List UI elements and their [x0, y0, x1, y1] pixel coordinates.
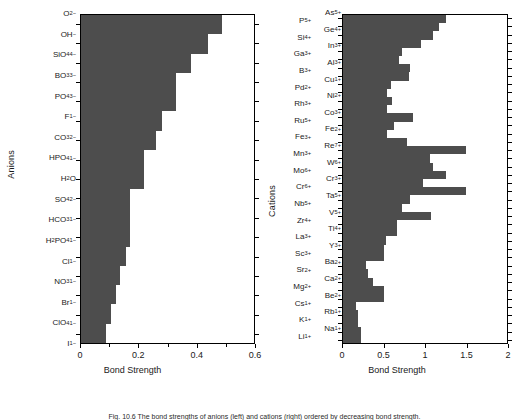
anions-ytick-r-1	[255, 43, 259, 44]
bar-row	[343, 15, 507, 23]
anion-bar-9	[81, 189, 130, 208]
cations-ytick-l-4	[338, 51, 342, 52]
cation-bar-32	[343, 278, 373, 286]
anion-bar-8	[81, 169, 144, 188]
bar-row	[343, 253, 507, 261]
cations-ytick-l-0	[338, 18, 342, 19]
anions-ytick-l-3	[76, 82, 80, 83]
anions-ytick-r-3	[255, 82, 259, 83]
cations-ytick-l-27	[338, 241, 342, 242]
cations-ytick-r-4	[508, 51, 512, 52]
figure-root: Anions O2−OH−SiO44−BO33−PO43−F1−CO32−HPO…	[0, 0, 529, 420]
cations-ytick-l-37	[338, 323, 342, 324]
anion-bar-16	[81, 324, 106, 343]
bar-row	[343, 97, 507, 105]
cations-ytick-r-15	[508, 142, 512, 143]
cation-bar-22	[343, 195, 410, 203]
cations-ytick-r-19	[508, 175, 512, 176]
cation-bar-21	[343, 187, 466, 195]
cation-bar-9	[343, 89, 387, 97]
cation-bar-24	[343, 212, 431, 220]
cations-tick-1	[384, 344, 385, 348]
anion-bar-13	[81, 266, 120, 285]
bar-row	[343, 236, 507, 244]
cations-ytick-l-7	[338, 76, 342, 77]
cation-bar-27	[343, 236, 386, 244]
anion-bar-1	[81, 34, 208, 53]
cations-ytick-r-27	[508, 241, 512, 242]
anions-ytick-r-15	[255, 315, 259, 316]
cations-ytick-l-17	[338, 158, 342, 159]
bar-row	[81, 54, 254, 73]
bar-row	[343, 48, 507, 56]
bar-row	[81, 131, 254, 150]
cations-ytick-r-36	[508, 315, 512, 316]
cations-ytick-r-1	[508, 26, 512, 27]
bar-row	[81, 324, 254, 343]
anions-ytick-r-9	[255, 198, 259, 199]
anions-ticklabel-2: 0.4	[190, 350, 203, 360]
cations-ytick-l-18	[338, 167, 342, 168]
bar-row	[343, 195, 507, 203]
bar-row	[343, 130, 507, 138]
anions-ytick-l-15	[76, 315, 80, 316]
bar-row	[343, 163, 507, 171]
bar-row	[343, 138, 507, 146]
cations-ytick-l-38	[338, 332, 342, 333]
bar-row	[343, 310, 507, 318]
cations-ytick-l-5	[338, 59, 342, 60]
cations-ytick-l-26	[338, 233, 342, 234]
anions-category-labels: O2−OH−SiO44−BO33−PO43−F1−CO32−HPO41−H2OS…	[14, 14, 76, 344]
bar-row	[343, 278, 507, 286]
anions-ytick-r-12	[255, 257, 259, 258]
anion-bar-6	[81, 131, 156, 150]
cation-bar-11	[343, 105, 387, 113]
cations-ytick-l-11	[338, 109, 342, 110]
anions-chart-panel: Anions O2−OH−SiO44−BO33−PO43−F1−CO32−HPO…	[0, 0, 265, 400]
cation-bar-16	[343, 146, 466, 154]
anions-ytick-r-2	[255, 63, 259, 64]
cation-bar-33	[343, 286, 384, 294]
bar-row	[343, 302, 507, 310]
cations-ytick-r-34	[508, 299, 512, 300]
bar-row	[81, 92, 254, 111]
bar-row	[343, 31, 507, 39]
cation-bar-12	[343, 113, 413, 121]
cations-ytick-l-34	[338, 299, 342, 300]
cations-ytick-l-14	[338, 134, 342, 135]
bar-row	[81, 15, 254, 34]
cation-bar-20	[343, 179, 423, 187]
cation-bar-14	[343, 130, 387, 138]
cation-bar-36	[343, 310, 358, 318]
bar-row	[343, 319, 507, 327]
anion-bar-5	[81, 111, 162, 130]
cations-ytick-r-18	[508, 167, 512, 168]
cations-ytick-r-38	[508, 332, 512, 333]
cations-ytick-l-33	[338, 290, 342, 291]
cations-ytick-l-13	[338, 125, 342, 126]
cations-ytick-l-3	[338, 43, 342, 44]
cations-ytick-r-9	[508, 92, 512, 93]
cations-tick-0	[342, 344, 343, 348]
cation-bar-15	[343, 138, 407, 146]
cations-ytick-l-24	[338, 216, 342, 217]
anions-ytick-l-13	[76, 276, 80, 277]
anions-ytick-r-5	[255, 121, 259, 122]
anions-tick-2	[197, 344, 198, 348]
cations-ytick-l-1	[338, 26, 342, 27]
cations-ytick-r-39	[508, 340, 512, 341]
cations-ytick-r-26	[508, 233, 512, 234]
cations-ytick-r-12	[508, 117, 512, 118]
anion-bar-14	[81, 285, 116, 304]
cation-bar-17	[343, 154, 430, 162]
bar-row	[343, 179, 507, 187]
bar-row	[343, 122, 507, 130]
bar-row	[81, 247, 254, 266]
cations-ytick-r-30	[508, 266, 512, 267]
anions-ytick-r-11	[255, 237, 259, 238]
anions-ytick-r-7	[255, 160, 259, 161]
bar-row	[343, 220, 507, 228]
cation-bar-19	[343, 171, 446, 179]
cations-ytick-l-35	[338, 307, 342, 308]
anions-ytick-r-13	[255, 276, 259, 277]
